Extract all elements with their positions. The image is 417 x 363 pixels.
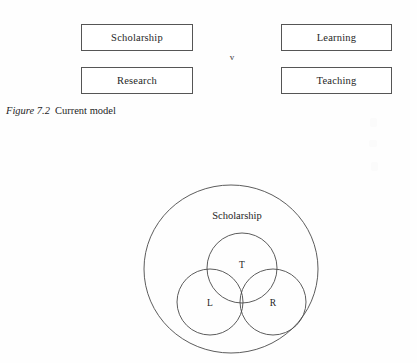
circle-l-label: L bbox=[207, 298, 213, 308]
box-scholarship: Scholarship bbox=[81, 24, 193, 51]
box-teaching: Teaching bbox=[281, 67, 392, 94]
venn-diagram: Scholarship T L R bbox=[140, 178, 335, 363]
box-research-label: Research bbox=[117, 75, 157, 86]
box-teaching-label: Teaching bbox=[317, 75, 357, 86]
circle-t-label: T bbox=[239, 260, 245, 270]
box-research: Research bbox=[81, 67, 193, 94]
scan-speckle-icon bbox=[369, 140, 377, 147]
figure-caption-number: Figure 7.2 bbox=[6, 105, 50, 116]
box-learning-label: Learning bbox=[317, 32, 357, 43]
scan-speckle-icon bbox=[371, 162, 378, 171]
versus-divider-label: v bbox=[225, 52, 239, 62]
outer-ellipse-label: Scholarship bbox=[212, 210, 262, 221]
box-learning: Learning bbox=[281, 24, 392, 51]
circle-r-label: R bbox=[270, 298, 277, 308]
scan-speckle-icon bbox=[370, 118, 377, 127]
figure-page: Scholarship Research Learning Teaching v… bbox=[0, 0, 417, 363]
figure-caption-text: Current model bbox=[55, 105, 116, 116]
figure-caption: Figure 7.2Current model bbox=[6, 105, 116, 116]
box-scholarship-label: Scholarship bbox=[111, 32, 163, 43]
